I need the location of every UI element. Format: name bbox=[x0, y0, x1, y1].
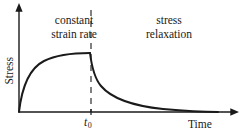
annotation-constant-strain-rate: constant strain rate bbox=[38, 14, 110, 41]
annotation-right-line-1: stress bbox=[128, 14, 210, 28]
y-axis-title: Stress bbox=[3, 48, 17, 94]
stress-relaxation-figure: constant strain rate stress relaxation S… bbox=[0, 0, 245, 137]
relaxation-curve-segment bbox=[90, 53, 218, 112]
annotation-right-line-2: relaxation bbox=[128, 28, 210, 42]
x-axis-title: Time bbox=[188, 118, 212, 132]
annotation-left-line-2: strain rate bbox=[38, 28, 110, 42]
annotation-left-line-1: constant bbox=[38, 14, 110, 28]
tick-label-variable: t bbox=[84, 116, 87, 128]
annotation-stress-relaxation: stress relaxation bbox=[128, 14, 210, 41]
loading-curve-segment bbox=[19, 53, 90, 112]
x-axis-tick-label-t0: t0 bbox=[84, 116, 91, 130]
tick-label-subscript: 0 bbox=[88, 121, 92, 130]
